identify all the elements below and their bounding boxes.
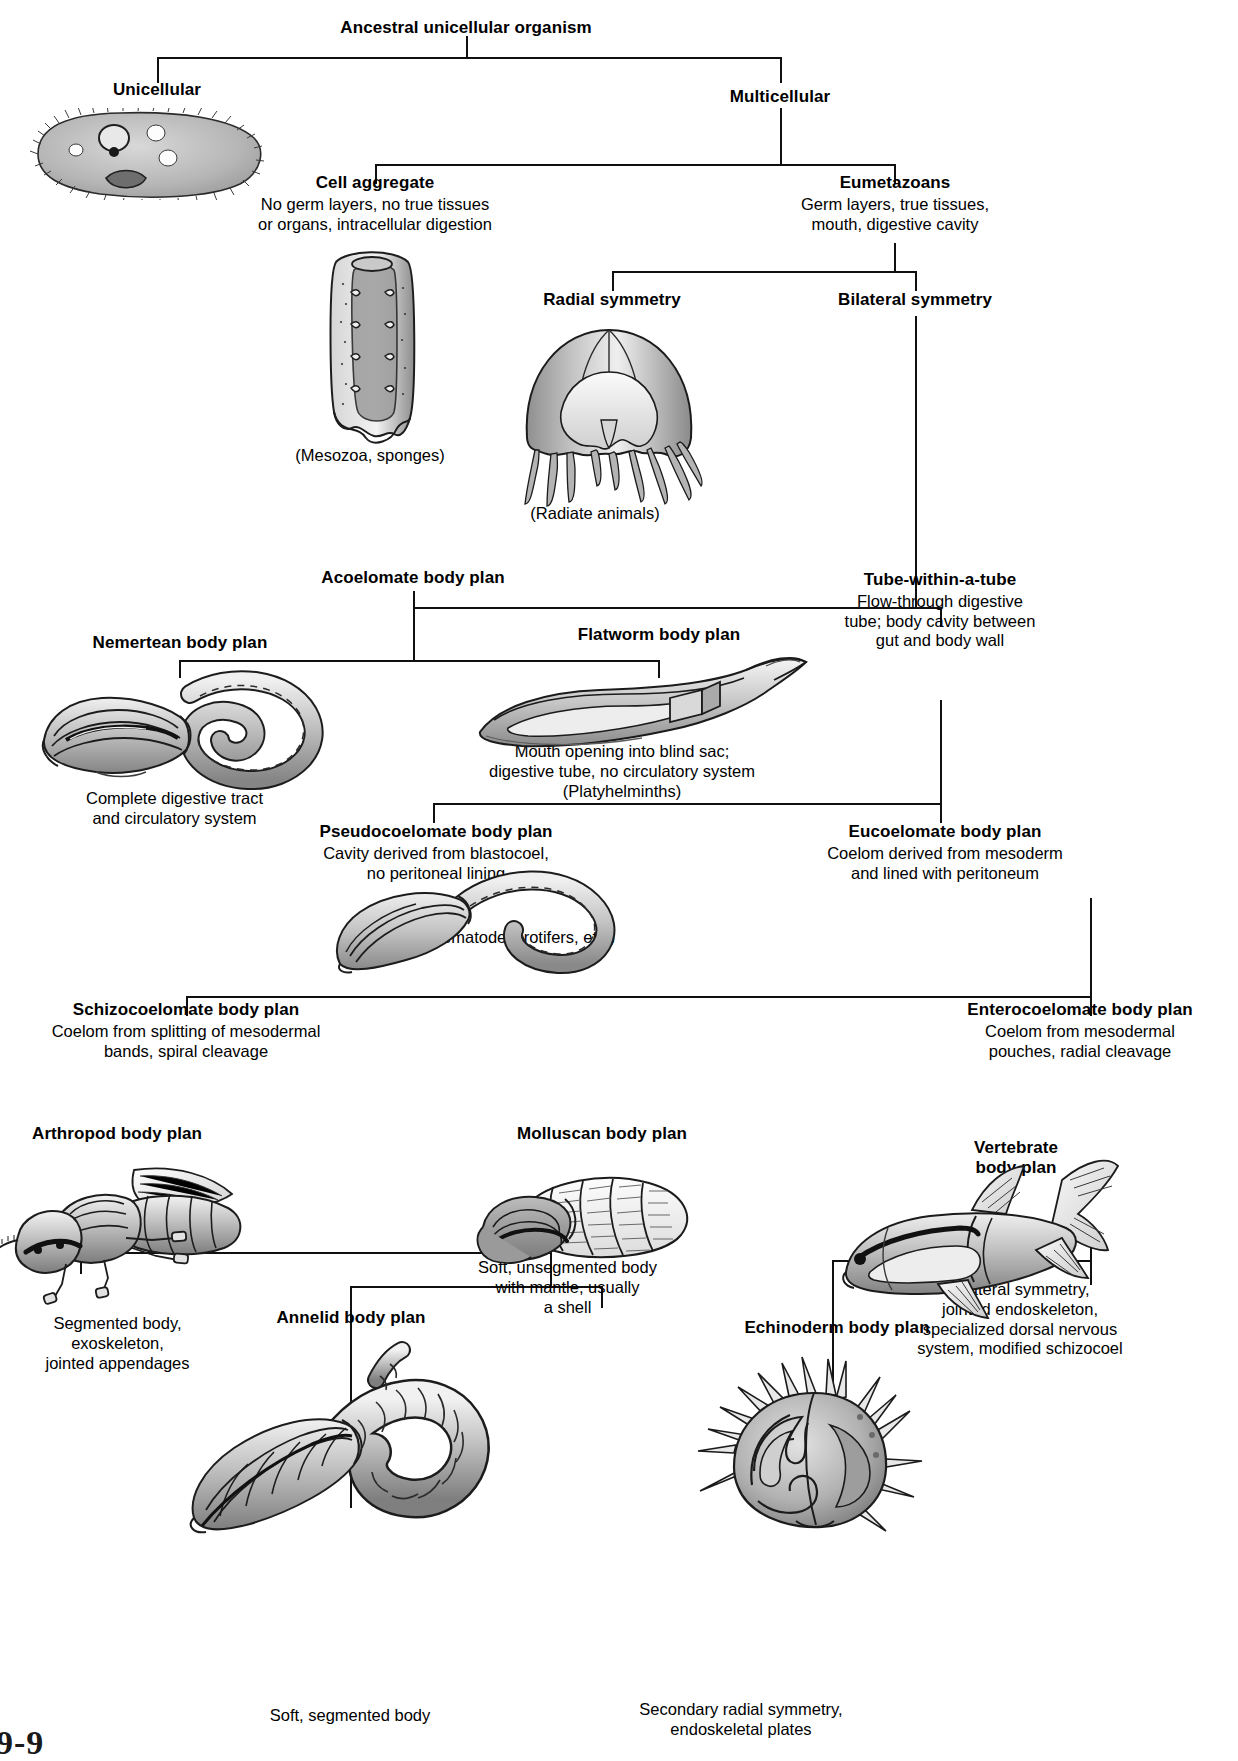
jellyfish-illustration	[505, 320, 715, 510]
connector-acoelomate-down	[413, 591, 415, 616]
node-annelid: Annelid body plan	[235, 1308, 467, 1328]
connector-level7-bar	[186, 996, 1092, 998]
nematode-illustration	[330, 860, 630, 980]
caption-echinoderm: Secondary radial symmetry, endoskeletal …	[596, 1700, 886, 1740]
node-enterocoelomate-desc: Coelom from mesodermal pouches, radial c…	[930, 1022, 1230, 1061]
node-bilateral-symmetry-title: Bilateral symmetry	[790, 290, 1040, 310]
connector-to-eucoelomate	[940, 803, 942, 823]
connector-to-multicellular	[780, 57, 782, 83]
sponge-illustration	[310, 248, 434, 448]
node-unicellular: Unicellular	[62, 80, 252, 100]
mollusc-illustration	[465, 1165, 705, 1275]
connector-level2-bar	[375, 164, 896, 166]
node-arthropod-title: Arthropod body plan	[0, 1124, 234, 1144]
node-unicellular-title: Unicellular	[62, 80, 252, 100]
connector-to-radial	[612, 271, 614, 291]
node-tube-within-a-tube-title: Tube-within-a-tube	[822, 570, 1058, 590]
connector-eucoelomate-stem	[1090, 898, 1092, 998]
connector-bilateral-stem	[915, 316, 917, 609]
node-eumetazoans-desc: Germ layers, true tissues, mouth, digest…	[760, 195, 1030, 234]
node-tube-within-a-tube: Tube-within-a-tube Flow-through digestiv…	[822, 570, 1058, 650]
node-tube-within-a-tube-desc: Flow-through digestive tube; body cavity…	[822, 592, 1058, 650]
node-eucoelomate-desc: Coelom derived from mesoderm and lined w…	[800, 844, 1090, 883]
node-acoelomate-title: Acoelomate body plan	[263, 568, 563, 588]
connector-level6-bar	[433, 803, 942, 805]
connector-ancestral-stem	[466, 36, 468, 58]
connector-acoelomate-drop	[413, 624, 415, 661]
node-nemertean: Nemertean body plan	[45, 633, 315, 653]
node-schizocoelomate-desc: Coelom from splitting of mesodermal band…	[24, 1022, 348, 1061]
node-bilateral-symmetry: Bilateral symmetry	[790, 290, 1040, 310]
caption-mesozoa: (Mesozoa, sponges)	[250, 446, 490, 466]
node-schizocoelomate-title: Schizocoelomate body plan	[24, 1000, 348, 1020]
node-molluscan-title: Molluscan body plan	[482, 1124, 722, 1144]
node-eumetazoans-title: Eumetazoans	[760, 173, 1030, 193]
connector-tube-stem	[940, 700, 942, 805]
node-flatworm: Flatworm body plan	[530, 625, 788, 645]
figure-label: 9-9	[0, 1724, 44, 1761]
echinoderm-illustration	[690, 1355, 930, 1555]
node-arthropod: Arthropod body plan	[0, 1124, 234, 1144]
connector-to-pseudocoelomate	[433, 803, 435, 823]
node-acoelomate: Acoelomate body plan	[263, 568, 563, 588]
vertebrate-illustration	[830, 1152, 1120, 1332]
connector-level1-bar	[157, 57, 782, 59]
node-ancestral: Ancestral unicellular organism	[286, 18, 646, 38]
node-cell-aggregate-desc: No germ layers, no true tissues or organ…	[220, 195, 530, 234]
node-enterocoelomate: Enterocoelomate body plan Coelom from me…	[930, 1000, 1230, 1061]
node-pseudocoelomate-title: Pseudocoelomate body plan	[286, 822, 586, 842]
annelid-illustration	[180, 1340, 490, 1540]
node-radial-symmetry: Radial symmetry	[497, 290, 727, 310]
flatworm-illustration	[474, 648, 814, 758]
connector-eumetazoans-stem	[894, 243, 896, 272]
diagram-canvas: Ancestral unicellular organism Unicellul…	[0, 0, 1238, 1761]
node-flatworm-title: Flatworm body plan	[530, 625, 788, 645]
node-radial-symmetry-title: Radial symmetry	[497, 290, 727, 310]
node-nemertean-title: Nemertean body plan	[45, 633, 315, 653]
node-enterocoelomate-title: Enterocoelomate body plan	[930, 1000, 1230, 1020]
connector-to-bilateral	[915, 271, 917, 291]
node-multicellular-title: Multicellular	[690, 87, 870, 107]
nemertean-worm-illustration	[40, 660, 330, 795]
connector-multicellular-stem	[780, 108, 782, 165]
connector-level3-bar	[612, 271, 917, 273]
caption-annelid: Soft, segmented body	[200, 1706, 500, 1726]
node-multicellular: Multicellular	[690, 87, 870, 107]
arthropod-illustration	[0, 1160, 290, 1310]
node-annelid-title: Annelid body plan	[235, 1308, 467, 1328]
paramecium-illustration	[28, 108, 268, 200]
node-molluscan: Molluscan body plan	[482, 1124, 722, 1144]
node-schizocoelomate: Schizocoelomate body plan Coelom from sp…	[24, 1000, 348, 1061]
node-eucoelomate: Eucoelomate body plan Coelom derived fro…	[800, 822, 1090, 883]
node-eumetazoans: Eumetazoans Germ layers, true tissues, m…	[760, 173, 1030, 234]
node-ancestral-title: Ancestral unicellular organism	[286, 18, 646, 38]
node-eucoelomate-title: Eucoelomate body plan	[800, 822, 1090, 842]
